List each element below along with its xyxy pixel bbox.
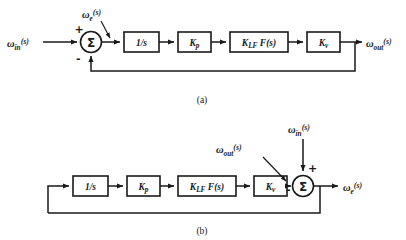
superscript-s: (s) [93,8,102,17]
summer-plus-sign-b: + [308,162,317,175]
output-label-a: ωout(s) [366,37,392,52]
diagram-b: 1/s Kp KLF F(s) Kv Σ - + ωin(s) [48,123,362,237]
svg-text:ωin(s): ωin(s) [288,123,310,138]
summer-plus-sign-a: + [75,23,84,36]
svg-text:ωe(s): ωe(s) [82,8,101,23]
input-label-a: ωin(s) [7,37,29,52]
block-diagram-svg: ωin(s) Σ + - ωe(s) 1/s Kp [0,0,406,240]
superscript-s: (s) [302,123,311,132]
error-leader-arrow-a [101,21,110,38]
svg-text:ωout(s): ωout(s) [366,37,392,52]
superscript-s: (s) [354,181,363,190]
summer-sigma-b: Σ [299,180,307,194]
summer-minus-sign-b: - [286,183,291,196]
figure-container: ωin(s) Σ + - ωe(s) 1/s Kp [0,0,406,240]
feedback-entry-b [48,186,69,213]
output-label-b: ωe(s) [343,181,362,196]
caption-b: (b) [196,226,207,237]
summer-sigma-a: Σ [87,36,95,50]
input-label-b: ωin(s) [288,123,310,171]
block-integrator-label-b: 1/s [85,182,96,192]
svg-text:ωout(s): ωout(s) [216,143,242,158]
superscript-s: (s) [21,37,30,46]
svg-text:ωe(s): ωe(s) [343,181,362,196]
superscript-s: (s) [233,143,242,152]
caption-a: (a) [197,95,208,106]
superscript-s: (s) [383,37,392,46]
diagram-a: ωin(s) Σ + - ωe(s) 1/s Kp [7,8,392,106]
summer-minus-sign-a: - [76,52,81,65]
block-integrator-label-a: 1/s [136,38,147,48]
svg-text:ωin(s): ωin(s) [7,37,29,52]
